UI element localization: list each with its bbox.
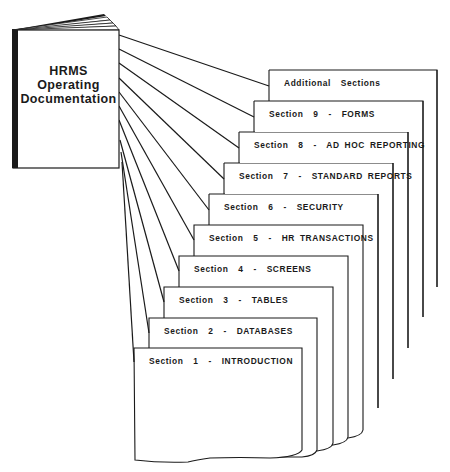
label-section-5: Section 5 - HR TRANSACTIONS xyxy=(209,233,374,243)
label-section-6: Section 6 - SECURITY xyxy=(224,202,344,212)
label-section-4: Section 4 - SCREENS xyxy=(194,264,311,274)
label-section-2: Section 2 - DATABASES xyxy=(164,326,293,336)
label-section-9: Section 9 - FORMS xyxy=(269,109,375,119)
book-title-line-3: Documentation xyxy=(18,92,119,106)
book-title: HRMS Operating Documentation xyxy=(18,64,119,106)
label-section-3: Section 3 - TABLES xyxy=(179,295,288,305)
book-title-line-1: HRMS xyxy=(18,64,119,78)
book-title-line-2: Operating xyxy=(18,78,119,92)
label-additional-sections: Additional Sections xyxy=(284,78,381,88)
label-section-1: Section 1 - INTRODUCTION xyxy=(149,356,293,366)
label-section-8: Section 8 - AD HOC REPORTING xyxy=(254,140,425,150)
label-section-7: Section 7 - STANDARD REPORTS xyxy=(239,171,412,181)
documentation-diagram: HRMS Operating Documentation Additional … xyxy=(0,0,450,472)
